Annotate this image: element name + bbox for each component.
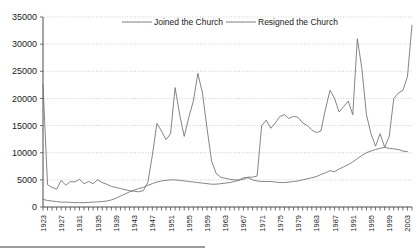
series-line-resigned bbox=[43, 25, 412, 192]
legend-label-resigned: Resigned the Church bbox=[258, 17, 338, 27]
x-axis-tick-label: 1987 bbox=[331, 215, 340, 232]
x-axis-tick-label: 1943 bbox=[130, 215, 139, 232]
y-axis-tick-label: 0 bbox=[32, 202, 37, 212]
x-axis-tick-label: 1951 bbox=[167, 215, 176, 232]
x-axis-tick-label: 1979 bbox=[294, 215, 303, 232]
y-axis-tick-label: 5000 bbox=[17, 175, 37, 185]
x-axis-tick-label: 2003 bbox=[403, 215, 412, 232]
x-axis-tick-label: 1967 bbox=[239, 215, 248, 232]
x-axis-tick-label: 1995 bbox=[367, 215, 376, 232]
y-axis-tick-label: 25000 bbox=[12, 66, 37, 76]
series-line-joined bbox=[43, 147, 407, 202]
y-axis-tick-label: 10000 bbox=[12, 148, 37, 158]
x-axis-tick-label: 1927 bbox=[57, 215, 66, 232]
y-axis-tick-label: 30000 bbox=[12, 39, 37, 49]
line-chart: 0500010000150002000025000300003500019231… bbox=[0, 0, 419, 251]
x-axis-tick-label: 1971 bbox=[258, 215, 267, 232]
x-axis-tick-label: 1983 bbox=[312, 215, 321, 232]
x-axis-tick-label: 1999 bbox=[385, 215, 394, 232]
legend-label-joined: Joined the Church bbox=[154, 17, 223, 27]
y-axis-tick-label: 20000 bbox=[12, 94, 37, 104]
x-axis-tick-label: 1959 bbox=[203, 215, 212, 232]
x-axis-tick-label: 1963 bbox=[221, 215, 230, 232]
x-axis-tick-label: 1935 bbox=[94, 215, 103, 232]
x-axis-tick-label: 1947 bbox=[148, 215, 157, 232]
x-axis-tick-label: 1931 bbox=[75, 215, 84, 232]
y-axis-tick-label: 35000 bbox=[12, 12, 37, 22]
x-axis-tick-label: 1939 bbox=[112, 215, 121, 232]
x-axis-tick-label: 1923 bbox=[39, 215, 48, 232]
x-axis-tick-label: 1955 bbox=[185, 215, 194, 232]
x-axis-tick-label: 1975 bbox=[276, 215, 285, 232]
x-axis-tick-label: 1991 bbox=[349, 215, 358, 232]
chart-container: 0500010000150002000025000300003500019231… bbox=[0, 0, 419, 251]
y-axis-tick-label: 15000 bbox=[12, 121, 37, 131]
